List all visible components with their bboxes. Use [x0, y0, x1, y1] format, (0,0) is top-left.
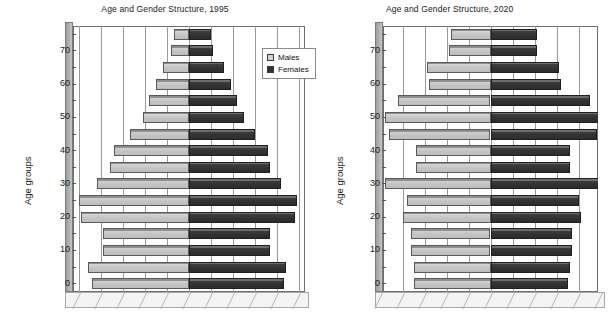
y-axis-tick-mark: [72, 67, 76, 68]
bar-males: [414, 262, 491, 273]
bar-males: [88, 262, 189, 273]
y-axis-tick-mark: [72, 267, 76, 268]
x-axis-tick-mark: [160, 293, 169, 309]
bar-females: [491, 112, 598, 123]
y-axis-tick-mark: [72, 200, 76, 201]
x-axis-tick-mark: [270, 293, 279, 309]
y-axis-tick-label: 0: [354, 279, 380, 288]
y-axis-tick-mark: [72, 50, 76, 51]
y-axis-tick-mark: [382, 200, 386, 201]
legend-label-males: Males: [278, 52, 299, 64]
y-axis-tick-label: 60: [354, 79, 380, 88]
bar-males: [403, 212, 491, 223]
gridline: [79, 26, 80, 292]
bar-males: [114, 145, 189, 156]
x-axis-tick-mark: [594, 293, 603, 309]
bar-females: [491, 228, 572, 239]
y-axis-tick-mark: [382, 267, 386, 268]
y-axis-tick-mark: [382, 150, 386, 151]
x-axis-tick-mark: [72, 293, 81, 309]
y-axis-tick-mark: [382, 233, 386, 234]
bar-females: [491, 195, 579, 206]
bar-females: [491, 79, 561, 90]
bar-females: [189, 62, 224, 73]
gridline: [579, 26, 580, 292]
bar-males: [81, 212, 189, 223]
y-axis-tick-label: 40: [354, 146, 380, 155]
bar-males: [414, 278, 491, 289]
x-axis-tick-mark: [528, 293, 537, 309]
bar-females: [491, 212, 581, 223]
y-axis-tick-mark: [382, 50, 386, 51]
y-axis-tick-mark: [72, 167, 76, 168]
bar-males: [163, 62, 189, 73]
bar-males: [171, 45, 189, 56]
y-axis-tick-label: 70: [354, 46, 380, 55]
bar-males: [389, 129, 490, 140]
bar-females: [491, 245, 572, 256]
chart-title-1995: Age and Gender Structure, 1995: [0, 4, 330, 14]
y-axis-tick-mark: [382, 34, 386, 35]
gridline: [403, 26, 404, 292]
y-axis-tick-mark: [382, 100, 386, 101]
bar-males: [103, 245, 189, 256]
y-axis-title-2020: Age groups: [334, 156, 345, 205]
bar-males: [427, 62, 491, 73]
legend-swatch-males-icon: [267, 54, 274, 61]
plot-floor-2020: [375, 292, 605, 308]
y-axis-tick-label: 50: [354, 112, 380, 121]
y-axis-tick-label: 50: [44, 112, 70, 121]
x-axis-tick-mark: [418, 293, 427, 309]
bar-males: [174, 29, 189, 40]
x-axis-tick-mark: [248, 293, 257, 309]
x-axis-tick-mark: [506, 293, 515, 309]
bar-males: [451, 29, 491, 40]
bar-males: [156, 79, 189, 90]
y-axis-tick-mark: [72, 134, 76, 135]
x-axis-tick-mark: [292, 293, 301, 309]
y-axis-tick-mark: [72, 283, 76, 284]
y-axis-tick-mark: [72, 117, 76, 118]
bar-females: [189, 245, 270, 256]
bar-males: [103, 228, 189, 239]
y-axis-tick-mark: [382, 167, 386, 168]
bar-females: [189, 95, 237, 106]
y-axis-tick-mark: [72, 233, 76, 234]
y-axis-tick-mark: [382, 67, 386, 68]
y-axis-tick-mark: [382, 183, 386, 184]
x-axis-tick-mark: [138, 293, 147, 309]
y-axis-tick-mark: [72, 217, 76, 218]
x-axis-tick-mark: [572, 293, 581, 309]
y-axis-tick-label: 40: [44, 146, 70, 155]
bar-females: [491, 262, 570, 273]
bar-males: [92, 278, 189, 289]
y-axis-tick-mark: [72, 84, 76, 85]
x-axis-tick-mark: [396, 293, 405, 309]
bar-males: [110, 162, 189, 173]
x-axis-tick-mark: [484, 293, 493, 309]
y-axis-tick-mark: [382, 217, 386, 218]
bar-females: [189, 228, 270, 239]
y-axis-tick-label: 10: [44, 245, 70, 254]
x-axis-tick-mark: [182, 293, 191, 309]
bar-females: [189, 178, 281, 189]
bar-females: [189, 212, 295, 223]
y-axis-tick-label: 60: [44, 79, 70, 88]
x-axis-tick-mark: [550, 293, 559, 309]
y-axis-tick-mark: [72, 250, 76, 251]
chart-panel-1995: Age and Gender Structure, 1995 Age group…: [0, 0, 330, 323]
bar-males: [385, 178, 491, 189]
y-axis-tick-mark: [72, 100, 76, 101]
x-axis-tick-mark: [204, 293, 213, 309]
legend-1995: Males Females: [262, 48, 316, 79]
x-axis-tick-mark: [226, 293, 235, 309]
bar-males: [411, 245, 490, 256]
bar-females: [491, 162, 570, 173]
bar-males: [385, 112, 491, 123]
y-axis-tick-mark: [382, 283, 386, 284]
legend-label-females: Females: [278, 64, 309, 76]
y-axis-tick-label: 70: [44, 46, 70, 55]
y-axis-tick-mark: [382, 117, 386, 118]
bar-females: [189, 79, 231, 90]
